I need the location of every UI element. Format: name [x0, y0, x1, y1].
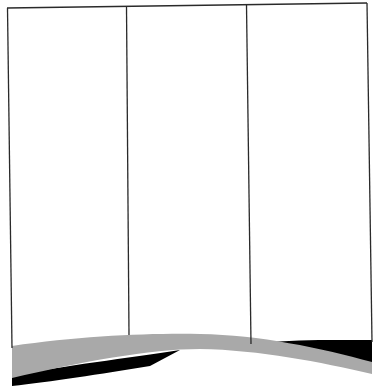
panel-divider-1	[127, 7, 130, 335]
top-edge	[7, 3, 367, 8]
left-edge	[8, 8, 13, 348]
right-edge	[367, 3, 372, 342]
trifold-board-illustration: three-panel folding display board with c…	[0, 0, 378, 386]
panel-divider-2	[247, 5, 252, 344]
